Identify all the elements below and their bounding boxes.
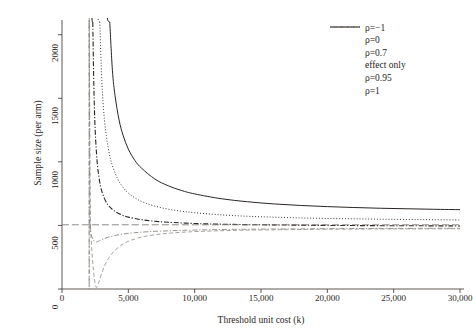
y-tick-label-text: 1000 xyxy=(50,160,60,200)
legend-label: effect only xyxy=(365,61,406,71)
legend-item: effect only xyxy=(330,60,406,73)
y-tick-label-text: 2000 xyxy=(50,33,60,73)
figure: Sample size (per arm) Threshold unit cos… xyxy=(0,0,473,336)
legend-label: ρ=0 xyxy=(365,36,380,46)
x-tick-label: 10,000 xyxy=(165,293,225,303)
x-tick-label: 30,000 xyxy=(430,293,473,303)
x-tick-label: 5,000 xyxy=(98,293,158,303)
series-line-6 xyxy=(91,228,460,288)
y-tick-label-text: 0 xyxy=(50,287,60,327)
legend-key-5 xyxy=(330,74,360,84)
legend: ρ=−1ρ=0ρ=0.7effect onlyρ=0.95ρ=1 xyxy=(330,22,406,98)
x-tick-label: 0 xyxy=(32,293,92,303)
legend-label: ρ=1 xyxy=(365,87,380,97)
y-tick-label-text: 1500 xyxy=(50,96,60,136)
legend-item: ρ=0 xyxy=(330,35,406,48)
legend-item: ρ=0.7 xyxy=(330,47,406,60)
series-asymptote xyxy=(92,14,93,22)
x-tick-label: 25,000 xyxy=(364,293,424,303)
y-tick-label-text: 500 xyxy=(50,223,60,263)
series-line-2 xyxy=(100,22,460,220)
legend-key-2 xyxy=(330,36,360,46)
legend-label: ρ=0.95 xyxy=(365,74,392,84)
series-line-5 xyxy=(90,224,460,242)
x-tick-label: 15,000 xyxy=(231,293,291,303)
series-line-1 xyxy=(110,22,460,210)
x-tick-label: 20,000 xyxy=(297,293,357,303)
legend-item: ρ=0.95 xyxy=(330,72,406,85)
legend-label: ρ=−1 xyxy=(365,24,385,34)
legend-key-6 xyxy=(330,86,360,96)
series-asymptote xyxy=(107,14,110,22)
legend-key-4 xyxy=(330,61,360,71)
legend-label: ρ=0.7 xyxy=(365,49,387,59)
legend-item: ρ=1 xyxy=(330,85,406,98)
series-asymptote xyxy=(98,14,100,22)
legend-key-3 xyxy=(330,48,360,58)
